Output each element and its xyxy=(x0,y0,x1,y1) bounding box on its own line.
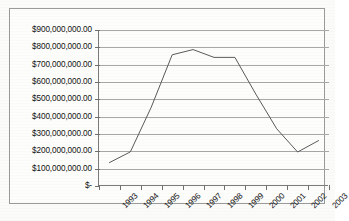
x-axis-label: 1994 xyxy=(143,192,161,210)
x-axis-label: 1995 xyxy=(163,192,181,210)
x-axis-label: 2002 xyxy=(310,192,328,210)
y-axis-label: $- xyxy=(85,182,92,190)
plot-area: $-$100,000,000.00$200,000,000.00$300,000… xyxy=(98,30,328,186)
x-axis-label: 1993 xyxy=(122,192,140,210)
y-axis-label: $200,000,000.00 xyxy=(32,147,92,155)
x-axis-label: 1998 xyxy=(226,192,244,210)
y-axis-label: $800,000,000.00 xyxy=(32,43,92,51)
chart-outer-frame: $-$100,000,000.00$200,000,000.00$300,000… xyxy=(9,8,325,204)
y-axis-label: $900,000,000.00 xyxy=(32,26,92,34)
data-series-line xyxy=(99,30,329,186)
x-axis-label: 1996 xyxy=(184,192,202,210)
x-axis-label: 1999 xyxy=(247,192,265,210)
x-axis-label: 1997 xyxy=(205,192,223,210)
y-axis-label: $100,000,000.00 xyxy=(32,165,92,173)
x-axis-label: 2000 xyxy=(268,192,286,210)
y-axis-label: $700,000,000.00 xyxy=(32,61,92,69)
y-axis-label: $500,000,000.00 xyxy=(32,95,92,103)
y-axis-label: $400,000,000.00 xyxy=(32,113,92,121)
x-axis-tick xyxy=(329,185,330,190)
x-axis-label: 2001 xyxy=(289,192,307,210)
y-axis-label: $300,000,000.00 xyxy=(32,130,92,138)
x-axis-label: 2003 xyxy=(331,192,349,210)
y-axis-label: $600,000,000.00 xyxy=(32,78,92,86)
